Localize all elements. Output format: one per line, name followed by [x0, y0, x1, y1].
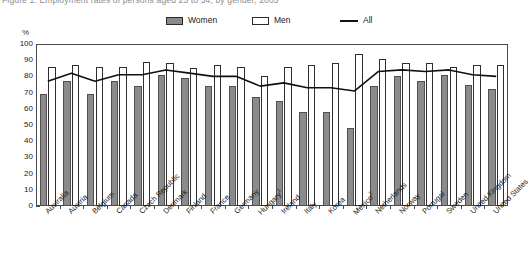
bar-group: [437, 44, 461, 206]
bar-men: [190, 68, 197, 206]
legend-swatch-men-icon: [252, 17, 269, 25]
bar-men: [308, 65, 315, 206]
bar-women: [370, 86, 377, 206]
bar-men: [214, 65, 221, 206]
bar-women: [40, 94, 47, 206]
bar-men: [426, 63, 433, 206]
bar-women: [347, 128, 354, 206]
bar-women: [323, 112, 330, 206]
bar-men: [237, 67, 244, 206]
bar-women: [441, 75, 448, 206]
y-axis-tick-label: 20: [24, 169, 36, 177]
bar-group: [366, 44, 390, 206]
bar-group: [60, 44, 84, 206]
y-axis-tick-label: 30: [24, 153, 36, 161]
bar-men: [143, 62, 150, 206]
bar-men: [96, 67, 103, 206]
bar-men: [473, 65, 480, 206]
bar-group: [225, 44, 249, 206]
bar-women: [465, 85, 472, 207]
legend-label-all: All: [363, 16, 372, 25]
bar-men: [379, 59, 386, 206]
legend-swatch-women-icon: [166, 17, 183, 25]
bar-men: [450, 67, 457, 206]
y-axis: 0102030405060708090100: [0, 44, 36, 207]
bar-group: [178, 44, 202, 206]
legend-item-men: Men: [252, 14, 291, 27]
bar-group: [201, 44, 225, 206]
legend-item-all: All: [340, 14, 372, 27]
bar-men: [332, 63, 339, 206]
y-axis-tick-label: 40: [24, 137, 36, 145]
legend-label-men: Men: [274, 16, 291, 25]
legend-swatch-all-icon: [340, 20, 358, 22]
legend-label-women: Women: [188, 16, 217, 25]
bar-group: [414, 44, 438, 206]
bar-women: [229, 86, 236, 206]
figure-title-cropped: Figure 1. Employment rates of persons ag…: [0, 0, 520, 7]
bar-group: [343, 44, 367, 206]
bar-group: [107, 44, 131, 206]
bar-women: [205, 86, 212, 206]
y-axis-tick-label: 80: [24, 72, 36, 80]
bar-series-layer: [36, 44, 508, 206]
y-axis-tick-label: 50: [24, 121, 36, 129]
bar-group: [461, 44, 485, 206]
bar-women: [111, 81, 118, 206]
bar-group: [130, 44, 154, 206]
bar-women: [87, 94, 94, 206]
y-axis-tick-label: 70: [24, 88, 36, 96]
y-axis-tick-label: 10: [24, 185, 36, 193]
bar-men: [284, 67, 291, 206]
x-axis-labels: AustraliaAustriaBelgiumCanadaCzech Repub…: [0, 208, 520, 272]
y-axis-tick-label: 60: [24, 104, 36, 112]
bar-men: [119, 67, 126, 206]
y-axis-tick-label: 100: [20, 40, 36, 48]
y-axis-unit-label: %: [22, 28, 29, 37]
bar-group: [248, 44, 272, 206]
bar-group: [272, 44, 296, 206]
bar-group: [319, 44, 343, 206]
legend-item-women: Women: [166, 14, 217, 27]
bar-men: [72, 65, 79, 206]
y-axis-tick-label: 90: [24, 56, 36, 64]
bar-women: [417, 81, 424, 206]
bar-women: [299, 112, 306, 206]
bar-men: [261, 76, 268, 206]
page-title: Figure 1. Employment rates of persons ag…: [2, 0, 279, 5]
bar-group: [296, 44, 320, 206]
bar-men: [48, 67, 55, 206]
bar-group: [36, 44, 60, 206]
bar-group: [83, 44, 107, 206]
chart-legend: Women Men All: [0, 14, 520, 27]
bar-men: [355, 54, 362, 206]
bar-women: [134, 86, 141, 206]
